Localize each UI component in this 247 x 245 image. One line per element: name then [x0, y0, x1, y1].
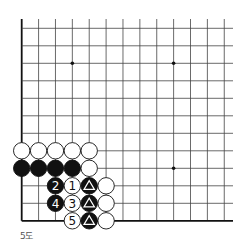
white-stone — [98, 178, 114, 194]
star-point-icon — [71, 62, 75, 66]
black-stone — [47, 160, 63, 176]
black-stone — [81, 178, 97, 194]
white-stone — [64, 143, 80, 159]
black-stone: 2 — [47, 178, 63, 194]
black-stone — [64, 160, 80, 176]
star-point-icon — [172, 167, 176, 171]
white-stone — [98, 195, 114, 211]
white-stone: 3 — [64, 195, 80, 211]
white-stone: 5 — [64, 213, 80, 229]
move-number: 3 — [69, 197, 77, 211]
go-board-diagram: 21435 — [0, 0, 247, 245]
white-stone — [14, 143, 30, 159]
white-stone — [81, 143, 97, 159]
white-stone — [30, 143, 46, 159]
black-stone: 4 — [47, 195, 63, 211]
black-stone — [81, 195, 97, 211]
move-number: 4 — [52, 197, 60, 211]
diagram-caption: 5도 — [20, 229, 33, 242]
black-stone — [14, 160, 30, 176]
move-number: 1 — [69, 179, 77, 193]
white-stone: 1 — [64, 178, 80, 194]
black-stone — [30, 160, 46, 176]
move-number: 2 — [52, 179, 60, 193]
white-stone — [47, 143, 63, 159]
white-stone — [81, 160, 97, 176]
black-stone — [81, 213, 97, 229]
move-number: 5 — [69, 214, 77, 228]
white-stone — [98, 213, 114, 229]
star-point-icon — [172, 62, 176, 66]
